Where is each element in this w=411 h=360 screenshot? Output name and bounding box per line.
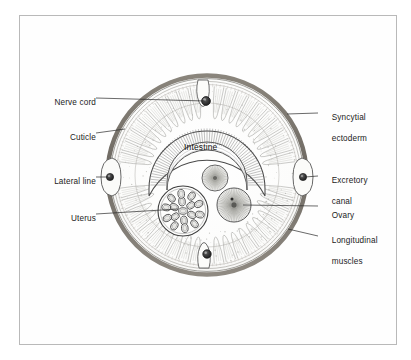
label-syncytial-ectoderm-line2: ectoderm — [332, 134, 367, 143]
figure-root: Nerve cord Cuticle Lateral line Uterus S… — [0, 0, 411, 360]
ovary-lower-core-dot — [231, 198, 234, 201]
label-nerve-cord-text: Nerve cord — [54, 98, 96, 107]
label-intestine-text: Intestine — [184, 142, 217, 152]
label-lateral-line: Lateral line — [0, 167, 99, 198]
label-longitudinal-muscles-line2: muscles — [332, 257, 363, 266]
label-ovary-text: Ovary — [332, 211, 355, 220]
excretory-canal-highlight — [301, 175, 303, 177]
ovary-upper — [202, 165, 228, 191]
label-intestine: Intestine — [184, 142, 217, 152]
label-uterus-text: Uterus — [71, 214, 96, 223]
label-cuticle: Cuticle — [0, 123, 99, 154]
uterus-structure — [158, 186, 208, 236]
label-lateral-line-text: Lateral line — [54, 177, 96, 186]
label-uterus: Uterus — [0, 204, 99, 235]
leader-line-syncytial-ectoderm — [287, 113, 318, 114]
label-longitudinal-muscles: Longitudinal muscles — [322, 226, 378, 278]
leader-line-longitudinal-muscles — [288, 229, 318, 236]
label-syncytial-ectoderm-line1: Syncytial — [332, 113, 366, 122]
ovary-upper-rachis-core — [213, 176, 217, 180]
label-excretory-canal-line1: Excretory — [332, 176, 368, 185]
ovary-lower-rachis-core — [231, 202, 236, 207]
label-nerve-cord: Nerve cord — [0, 88, 99, 119]
label-syncytial-ectoderm: Syncytial ectoderm — [322, 103, 367, 155]
dorsal-nerve-cord-highlight — [203, 98, 206, 101]
lateral-line-canal-highlight — [108, 175, 110, 177]
ventral-nerve-cord-dot — [203, 250, 211, 258]
excretory-canal-right-group — [293, 158, 313, 196]
label-cuticle-text: Cuticle — [70, 133, 96, 142]
label-longitudinal-muscles-line1: Longitudinal — [332, 236, 378, 245]
ventral-nerve-cord-highlight — [205, 252, 207, 254]
